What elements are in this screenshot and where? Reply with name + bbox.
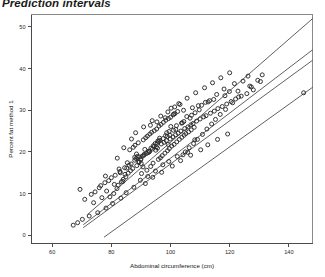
- data-point: [151, 161, 155, 165]
- scatter-plot: 01020304050 6080100120140 Abdominal circ…: [0, 0, 325, 277]
- data-point: [225, 102, 229, 106]
- data-point: [87, 214, 91, 218]
- data-point: [112, 182, 116, 186]
- data-point: [213, 117, 217, 121]
- data-point: [239, 94, 243, 98]
- data-point: [119, 196, 123, 200]
- data-point: [148, 123, 152, 127]
- data-point: [159, 114, 163, 118]
- data-point: [182, 108, 186, 112]
- data-point: [103, 181, 107, 185]
- data-point: [92, 201, 96, 205]
- data-point: [260, 73, 264, 77]
- data-point: [211, 81, 215, 85]
- data-point: [218, 112, 222, 116]
- data-point: [175, 154, 179, 158]
- data-point: [107, 179, 111, 183]
- y-tick-label: 40: [19, 66, 25, 72]
- data-point: [206, 143, 210, 147]
- data-point: [150, 119, 154, 123]
- data-point: [232, 82, 236, 86]
- data-point: [208, 111, 212, 115]
- data-point: [185, 96, 189, 100]
- data-point: [145, 168, 149, 172]
- data-point: [222, 87, 226, 91]
- data-point: [245, 92, 249, 96]
- y-axis-title: Percent fat method 1: [7, 100, 14, 158]
- data-point: [197, 108, 201, 112]
- data-point: [216, 107, 220, 111]
- y-axis: 01020304050: [19, 15, 31, 244]
- data-point: [103, 174, 107, 178]
- data-point: [228, 71, 232, 75]
- x-tick-label: 140: [284, 249, 293, 255]
- data-point: [224, 107, 228, 111]
- prediction-line: [83, 60, 312, 227]
- data-point: [83, 197, 87, 201]
- data-point: [203, 100, 207, 104]
- data-point: [203, 86, 207, 90]
- data-point: [71, 223, 75, 227]
- x-axis: 6080100120140: [32, 244, 313, 256]
- x-tick-label: 100: [166, 249, 175, 255]
- data-point: [241, 79, 245, 83]
- data-point: [124, 175, 128, 179]
- data-point: [226, 132, 230, 136]
- data-point: [80, 217, 84, 221]
- y-tick-label: 20: [19, 149, 25, 155]
- data-point: [194, 91, 198, 95]
- data-point: [136, 141, 140, 145]
- y-tick-label: 50: [19, 24, 25, 30]
- data-point: [199, 148, 203, 152]
- data-point: [190, 106, 194, 110]
- data-point: [215, 92, 219, 96]
- data-point: [219, 76, 223, 80]
- data-point: [143, 147, 147, 151]
- data-point: [105, 189, 109, 193]
- data-point: [237, 95, 241, 99]
- data-point: [169, 125, 173, 129]
- data-point: [142, 125, 146, 129]
- data-point: [216, 137, 220, 141]
- data-point: [122, 146, 126, 150]
- data-point: [192, 125, 196, 129]
- x-tick-label: 80: [108, 249, 114, 255]
- data-points: [71, 71, 305, 227]
- data-point: [93, 190, 97, 194]
- data-point: [212, 97, 216, 101]
- x-axis-title: Abdominal circumference (cm): [130, 262, 214, 269]
- data-point: [187, 146, 191, 150]
- data-point: [236, 89, 240, 93]
- data-point: [134, 131, 138, 135]
- y-tick-label: 10: [19, 191, 25, 197]
- data-point: [166, 110, 170, 114]
- data-point: [115, 156, 119, 160]
- data-point: [129, 137, 133, 141]
- data-point: [167, 159, 171, 163]
- prediction-interval-lines: [83, 19, 312, 238]
- data-point: [173, 105, 177, 109]
- data-point: [89, 192, 93, 196]
- data-point: [155, 120, 159, 124]
- y-tick-label: 0: [22, 232, 25, 238]
- data-point: [210, 122, 214, 126]
- data-point: [178, 102, 182, 106]
- data-point: [76, 221, 80, 225]
- chart-figure: Prediction intervals 01020304050 6080100…: [0, 0, 325, 277]
- x-tick-label: 120: [225, 249, 234, 255]
- data-point: [113, 173, 117, 177]
- data-point: [179, 159, 183, 163]
- prediction-line: [88, 19, 313, 215]
- data-point: [78, 187, 82, 191]
- data-point: [140, 172, 144, 176]
- y-tick-label: 30: [19, 107, 25, 113]
- x-tick-label: 60: [49, 249, 55, 255]
- data-point: [227, 90, 231, 94]
- data-point: [170, 164, 174, 168]
- data-point: [200, 132, 204, 136]
- data-point: [100, 196, 104, 200]
